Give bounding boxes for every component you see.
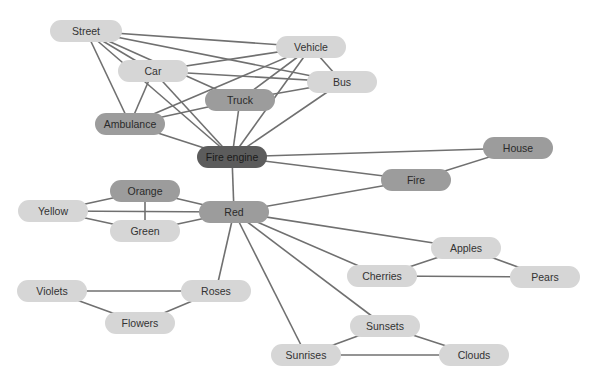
node-label: Roses (201, 285, 231, 297)
node-street[interactable]: Street (50, 20, 122, 42)
node-fire[interactable]: Fire (381, 169, 451, 191)
node-cherries[interactable]: Cherries (347, 265, 417, 287)
node-label: Fire (407, 174, 425, 186)
node-label: Apples (450, 242, 482, 254)
edge-fire_engine-house (232, 148, 518, 157)
node-sunsets[interactable]: Sunsets (350, 315, 420, 337)
node-label: Cherries (362, 270, 402, 282)
node-clouds[interactable]: Clouds (439, 344, 509, 366)
node-roses[interactable]: Roses (181, 280, 251, 302)
node-label: Yellow (38, 205, 68, 217)
node-label: Sunsets (366, 320, 404, 332)
node-red[interactable]: Red (199, 201, 269, 223)
node-label: Orange (127, 185, 162, 197)
concept-map-canvas: StreetVehicleCarBusTruckAmbulanceFire en… (0, 0, 605, 386)
node-green[interactable]: Green (110, 220, 180, 242)
node-label: Sunrises (286, 349, 327, 361)
node-apples[interactable]: Apples (431, 237, 501, 259)
node-fire-engine[interactable]: Fire engine (197, 146, 267, 168)
node-label: Ambulance (104, 118, 157, 130)
node-label: Fire engine (206, 151, 259, 163)
node-label: Bus (333, 76, 351, 88)
node-pears[interactable]: Pears (510, 266, 580, 288)
node-label: Green (130, 225, 159, 237)
node-bus[interactable]: Bus (307, 71, 377, 93)
node-label: Vehicle (294, 41, 328, 53)
node-label: Pears (531, 271, 558, 283)
node-car[interactable]: Car (118, 60, 188, 82)
node-violets[interactable]: Violets (17, 280, 87, 302)
node-label: House (503, 142, 533, 154)
node-label: Street (72, 25, 100, 37)
node-vehicle[interactable]: Vehicle (276, 36, 346, 58)
node-label: Truck (227, 94, 253, 106)
node-yellow[interactable]: Yellow (18, 200, 88, 222)
node-label: Red (224, 206, 243, 218)
node-orange[interactable]: Orange (110, 180, 180, 202)
node-label: Flowers (122, 317, 159, 329)
node-label: Clouds (458, 349, 491, 361)
node-sunrises[interactable]: Sunrises (271, 344, 341, 366)
node-house[interactable]: House (483, 137, 553, 159)
node-label: Car (145, 65, 162, 77)
node-flowers[interactable]: Flowers (105, 312, 175, 334)
node-truck[interactable]: Truck (205, 89, 275, 111)
node-ambulance[interactable]: Ambulance (95, 113, 165, 135)
node-label: Violets (36, 285, 67, 297)
